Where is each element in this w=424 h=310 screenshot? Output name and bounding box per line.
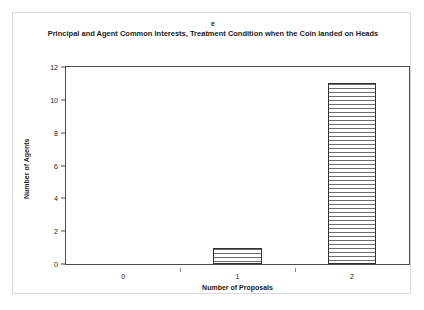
plot-area: [65, 66, 410, 265]
y-tick-label: 4: [54, 195, 58, 202]
y-tick-label: 10: [50, 96, 58, 103]
x-tick-mark: [180, 268, 181, 272]
x-axis-title: Number of Proposals: [65, 284, 410, 291]
panel-letter: e: [43, 19, 383, 28]
chart-title-text: Principal and Agent Common Interests, Tr…: [43, 29, 383, 40]
x-tick-label: 2: [350, 273, 354, 280]
y-tick-label: 2: [54, 228, 58, 235]
bar-1: [213, 248, 261, 264]
y-tick-label: 8: [54, 129, 58, 136]
y-tick-label: 6: [54, 162, 58, 169]
bar-2: [328, 83, 376, 264]
plot-inner: [66, 67, 409, 264]
x-tick-label: 1: [236, 273, 240, 280]
chart-title-block: e Principal and Agent Common Interests, …: [43, 19, 383, 40]
x-tick-mark: [295, 268, 296, 272]
x-tick-label: 0: [121, 273, 125, 280]
y-axis: 024681012: [13, 66, 65, 266]
y-tick-label: 0: [54, 261, 58, 268]
figure-frame: e Principal and Agent Common Interests, …: [12, 12, 411, 294]
x-axis: 012: [65, 268, 410, 282]
y-tick-label: 12: [50, 64, 58, 71]
